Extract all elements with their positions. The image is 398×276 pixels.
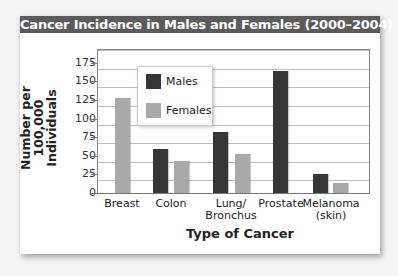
gridline	[98, 143, 369, 144]
y-tickmark	[91, 137, 97, 138]
legend-swatch-males	[146, 74, 161, 89]
y-tickmark	[91, 119, 97, 120]
y-axis-label-line-1: Number per 100,000	[19, 58, 45, 198]
legend: Males Females	[137, 66, 213, 126]
gridline	[98, 50, 369, 51]
bar-colon-males	[153, 149, 168, 193]
x-tick-label: (skin)	[301, 210, 361, 222]
y-axis-label: Number per 100,000 Individuals	[19, 58, 58, 198]
y-tickmark	[91, 63, 97, 64]
bar-melanoma-females	[333, 183, 348, 193]
gridline	[98, 180, 369, 181]
bar-prostate-males	[273, 71, 288, 193]
x-tick-melanoma: Melanoma (skin)	[301, 198, 361, 222]
y-tickmark	[91, 100, 97, 101]
x-tick-label: Colon	[141, 198, 201, 210]
legend-label-females: Females	[166, 103, 212, 118]
legend-label-males: Males	[166, 74, 198, 89]
y-tickmark	[91, 156, 97, 157]
x-axis-line	[91, 193, 369, 194]
bar-lung-females	[235, 154, 250, 193]
bar-breast-females	[115, 98, 130, 193]
y-tickmark	[91, 81, 97, 82]
legend-swatch-females	[146, 103, 161, 118]
bar-melanoma-males	[313, 174, 328, 193]
x-tick-colon: Colon	[141, 198, 201, 210]
chart-title: Cancer Incidence in Males and Females (2…	[20, 16, 380, 33]
x-tick-label: Bronchus	[201, 210, 261, 222]
y-tickmark	[91, 174, 97, 175]
bar-colon-females	[174, 161, 189, 193]
chart-card: Cancer Incidence in Males and Females (2…	[20, 16, 380, 254]
y-axis-label-line-2: Individuals	[45, 58, 58, 198]
x-axis-label: Type of Cancer	[20, 226, 380, 241]
bar-lung-males	[213, 132, 228, 193]
gridline	[98, 162, 369, 163]
